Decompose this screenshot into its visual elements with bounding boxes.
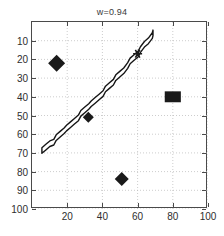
- y-axis-tick-label: 30: [17, 73, 28, 84]
- y-axis-tick-mark: [202, 59, 206, 60]
- x-axis-tick-label: 20: [62, 211, 73, 222]
- y-axis-tick-label: 70: [17, 147, 28, 158]
- chart-title: w=0.94: [0, 7, 224, 17]
- x-axis-tick-mark: [173, 22, 174, 26]
- y-axis-tick-label: 40: [17, 91, 28, 102]
- y-axis-tick-mark: [202, 153, 206, 154]
- x-axis-tick-mark: [208, 203, 209, 207]
- y-axis-tick-mark: [32, 190, 36, 191]
- data-marker-star: [133, 50, 142, 58]
- y-axis-tick-mark: [32, 78, 36, 79]
- x-axis-tick-mark: [208, 22, 209, 26]
- y-axis-tick-label: 50: [17, 110, 28, 121]
- y-axis-tick-label: 100: [11, 204, 28, 215]
- y-axis-tick-label: 20: [17, 54, 28, 65]
- y-axis-tick-mark: [202, 209, 206, 210]
- x-axis-tick-mark: [173, 203, 174, 207]
- x-axis-tick-label: 100: [200, 211, 217, 222]
- data-marker-diamond: [48, 55, 65, 72]
- y-axis-tick-mark: [32, 41, 36, 42]
- marker-layer: [32, 22, 206, 207]
- y-axis-tick-mark: [32, 153, 36, 154]
- y-axis-tick-label: 60: [17, 129, 28, 140]
- y-axis-tick-mark: [202, 41, 206, 42]
- y-axis-tick-mark: [32, 172, 36, 173]
- x-axis-tick-mark: [67, 203, 68, 207]
- y-axis-tick-mark: [202, 172, 206, 173]
- x-axis-tick-mark: [102, 22, 103, 26]
- data-marker-diamond: [115, 172, 129, 186]
- y-axis-tick-mark: [32, 97, 36, 98]
- data-marker-diamond: [83, 112, 94, 123]
- x-axis-tick-mark: [138, 203, 139, 207]
- chart-figure: w=0.94 10203040506070809010020406080100: [0, 0, 224, 236]
- x-axis-tick-label: 60: [132, 211, 143, 222]
- y-axis-tick-mark: [32, 209, 36, 210]
- markers-svg: [32, 22, 208, 209]
- y-axis-tick-mark: [32, 116, 36, 117]
- y-axis-tick-mark: [202, 78, 206, 79]
- y-axis-tick-mark: [202, 190, 206, 191]
- y-axis-tick-mark: [202, 116, 206, 117]
- data-marker-square: [165, 91, 181, 102]
- y-axis-tick-label: 80: [17, 166, 28, 177]
- x-axis-tick-label: 40: [97, 211, 108, 222]
- y-axis-tick-mark: [32, 134, 36, 135]
- x-axis-tick-label: 80: [167, 211, 178, 222]
- x-axis-tick-mark: [138, 22, 139, 26]
- y-axis-tick-mark: [202, 134, 206, 135]
- y-axis-tick-mark: [32, 59, 36, 60]
- plot-area: 10203040506070809010020406080100: [31, 21, 207, 208]
- y-axis-tick-mark: [202, 97, 206, 98]
- x-axis-tick-mark: [67, 22, 68, 26]
- y-axis-tick-label: 10: [17, 35, 28, 46]
- x-axis-tick-mark: [102, 203, 103, 207]
- y-axis-tick-label: 90: [17, 185, 28, 196]
